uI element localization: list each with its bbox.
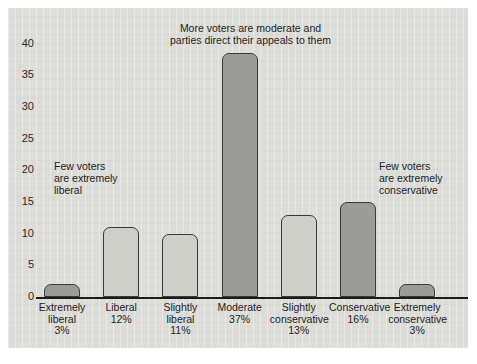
x-label-line: Slightly bbox=[151, 302, 209, 314]
annotation-top-line1: More voters are moderate and bbox=[148, 22, 353, 34]
annotation-top-line2: parties direct their appeals to them bbox=[148, 34, 353, 46]
annotation-right: Few voters are extremely conservative bbox=[379, 160, 468, 196]
bar-slightly-conservative bbox=[281, 215, 317, 297]
annotation-right-line3: conservative bbox=[379, 184, 468, 196]
annotation-left: Few voters are extremely liberal bbox=[54, 160, 149, 196]
y-tick-10: 10 bbox=[8, 228, 34, 239]
y-tick-15: 15 bbox=[8, 196, 34, 207]
annotation-left-line2: are extremely bbox=[54, 172, 149, 184]
annotation-left-line3: liberal bbox=[54, 184, 149, 196]
annotation-right-line2: are extremely bbox=[379, 172, 468, 184]
annotation-left-line1: Few voters bbox=[54, 160, 149, 172]
x-label-line: Conservative bbox=[329, 302, 387, 314]
x-label-percent: 3% bbox=[33, 325, 91, 337]
y-tick-0: 0 bbox=[8, 291, 34, 302]
y-tick-35: 35 bbox=[8, 69, 34, 80]
x-label-conservative: Conservative16% bbox=[329, 302, 387, 325]
chart-panel: 0510152025303540 Extremelyliberal3%Liber… bbox=[8, 8, 468, 348]
x-label-slightly-conservative: Slightlyconservative13% bbox=[270, 302, 328, 337]
x-label-slightly-liberal: Slightlyliberal11% bbox=[151, 302, 209, 337]
x-axis-baseline bbox=[36, 297, 468, 299]
y-tick-40: 40 bbox=[8, 38, 34, 49]
x-label-percent: 13% bbox=[270, 325, 328, 337]
y-tick-30: 30 bbox=[8, 101, 34, 112]
y-tick-20: 20 bbox=[8, 164, 34, 175]
chart-figure: 0510152025303540 Extremelyliberal3%Liber… bbox=[0, 0, 477, 364]
x-label-percent: 12% bbox=[92, 314, 150, 326]
bar-extremely-conservative bbox=[399, 284, 435, 297]
annotation-top: More voters are moderate and parties dir… bbox=[148, 22, 353, 46]
y-tick-25: 25 bbox=[8, 133, 34, 144]
annotation-right-line1: Few voters bbox=[379, 160, 468, 172]
x-label-line: Extremely bbox=[33, 302, 91, 314]
bar-conservative bbox=[340, 202, 376, 297]
x-label-extremely-conservative: Extremelyconservative3% bbox=[388, 302, 446, 337]
x-label-percent: 11% bbox=[151, 325, 209, 337]
bar-moderate bbox=[222, 53, 258, 297]
x-label-line: Liberal bbox=[92, 302, 150, 314]
x-label-moderate: Moderate37% bbox=[211, 302, 269, 325]
x-label-line: Extremely bbox=[388, 302, 446, 314]
x-label-extremely-liberal: Extremelyliberal3% bbox=[33, 302, 91, 337]
x-label-percent: 16% bbox=[329, 314, 387, 326]
x-label-line: Slightly bbox=[270, 302, 328, 314]
x-label-line: Moderate bbox=[211, 302, 269, 314]
x-label-percent: 3% bbox=[388, 325, 446, 337]
bar-slightly-liberal bbox=[162, 234, 198, 297]
bar-extremely-liberal bbox=[44, 284, 80, 297]
bar-liberal bbox=[103, 227, 139, 297]
x-label-liberal: Liberal12% bbox=[92, 302, 150, 325]
x-label-percent: 37% bbox=[211, 314, 269, 326]
y-tick-5: 5 bbox=[8, 259, 34, 270]
